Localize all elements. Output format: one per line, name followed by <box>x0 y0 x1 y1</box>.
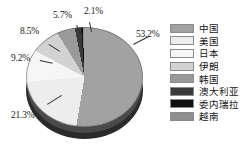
legend-item[interactable]: 美国 <box>170 35 244 48</box>
legend-swatch-iran <box>170 62 194 71</box>
slice-label-australia: 2.1% <box>84 6 103 16</box>
legend-item[interactable]: 伊朗 <box>170 60 244 73</box>
legend-item[interactable]: 澳大利亚 <box>170 85 244 98</box>
legend: 中国 美国 日本 伊朗 韩国 澳大利亚 委内瑞拉 越南 <box>170 22 244 123</box>
pie-slices[interactable] <box>26 27 143 127</box>
legend-swatch-venezuela <box>170 99 194 108</box>
legend-swatch-usa <box>170 36 194 45</box>
legend-swatch-vietnam <box>170 112 194 121</box>
legend-item[interactable]: 日本 <box>170 47 244 60</box>
slice-label-iran: 8.5% <box>20 26 39 36</box>
pie-3d <box>26 27 143 144</box>
slice-label-japan: 9.2% <box>11 53 30 63</box>
legend-swatch-korea <box>170 74 194 83</box>
legend-swatch-china <box>170 24 194 33</box>
pie-top-face <box>26 27 143 127</box>
slice-label-china: 53.2% <box>136 29 160 39</box>
legend-swatch-australia <box>170 87 194 96</box>
legend-item[interactable]: 委内瑞拉 <box>170 98 244 111</box>
pie-chart-area: 53.2% 21.3% 9.2% 8.5% 5.7% 2.1% <box>0 0 170 147</box>
legend-item[interactable]: 韩国 <box>170 72 244 85</box>
chart-root: 53.2% 21.3% 9.2% 8.5% 5.7% 2.1% 中国 美国 日本… <box>0 0 244 147</box>
legend-item[interactable]: 越南 <box>170 110 244 123</box>
slice-label-korea: 5.7% <box>53 10 72 20</box>
legend-swatch-japan <box>170 49 194 58</box>
legend-item[interactable]: 中国 <box>170 22 244 35</box>
slice-label-usa: 21.3% <box>11 110 35 120</box>
legend-label-vietnam: 越南 <box>199 109 219 123</box>
